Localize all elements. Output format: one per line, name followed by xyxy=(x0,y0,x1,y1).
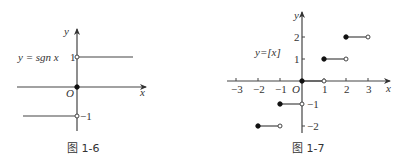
x-axis-label: x xyxy=(139,86,145,98)
figure-sgn: y x O 1 −1 y = sgn x 图 1-6 xyxy=(17,25,146,155)
figure-caption: 图 1-7 xyxy=(292,142,324,155)
y-tick-label: 1 xyxy=(294,53,300,65)
figure-caption: 图 1-6 xyxy=(67,142,99,155)
closed-point xyxy=(300,79,304,83)
closed-point xyxy=(344,35,348,39)
closed-point-origin xyxy=(75,85,79,89)
y-tick-1: 1 xyxy=(70,51,76,63)
closed-point xyxy=(256,124,260,128)
origin-label: O xyxy=(292,83,300,95)
figure-floor: y x O −3 −2 −1 1 2 3 2 1 −1 −2 y=[x] 图 1… xyxy=(227,9,391,155)
figures-canvas: y x O 1 −1 y = sgn x 图 1-6 xyxy=(0,0,405,165)
origin-label: O xyxy=(66,87,74,99)
y-tick-label: −2 xyxy=(307,120,319,132)
open-point-0-1 xyxy=(75,55,79,59)
x-axis-label: x xyxy=(385,82,391,94)
x-tick-label: 3 xyxy=(366,83,372,95)
y-axis-label: y xyxy=(293,9,299,21)
y-tick-neg1: −1 xyxy=(80,110,92,122)
open-point xyxy=(300,102,304,106)
function-label: y=[x] xyxy=(254,46,281,58)
open-point xyxy=(278,124,282,128)
open-point xyxy=(344,57,348,61)
closed-point xyxy=(322,57,326,61)
closed-point xyxy=(278,102,282,106)
open-point xyxy=(366,35,370,39)
y-tick-label: 2 xyxy=(294,31,300,43)
y-tick-label: −1 xyxy=(307,98,319,110)
y-axis-label: y xyxy=(63,25,69,37)
x-tick-label: 1 xyxy=(322,83,328,95)
open-point-0-neg1 xyxy=(75,114,79,118)
x-tick-label: −2 xyxy=(253,83,265,95)
function-label: y = sgn x xyxy=(17,51,59,63)
x-tick-label: −1 xyxy=(275,83,287,95)
x-tick-label: 2 xyxy=(344,83,350,95)
x-tick-label: −3 xyxy=(231,83,243,95)
